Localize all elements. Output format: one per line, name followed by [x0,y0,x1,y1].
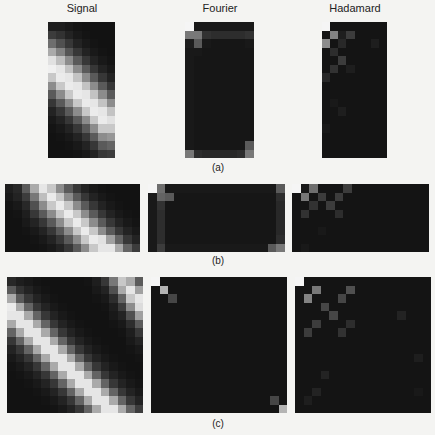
heatmap-cell [423,328,432,337]
heatmap-cell [304,379,313,388]
heatmap-cell [245,73,254,82]
heatmap-cell [48,90,56,99]
heatmap-cell [414,396,423,405]
heatmap-cell [107,124,115,133]
heatmap-cell [107,31,115,40]
heatmap-cell [228,82,237,91]
heatmap-cell [185,73,194,82]
heatmap-cell [148,201,157,210]
heatmap-cell [253,337,262,346]
heatmap-cell [355,320,364,329]
heatmap-cell [148,218,157,227]
heatmap-cell [372,311,381,320]
heatmap-cell [13,210,21,219]
heatmap-cell [395,201,404,210]
heatmap-cell [228,286,237,295]
heatmap-cell [346,90,354,99]
heatmap-cell [322,22,330,31]
heatmap-cell [245,22,254,31]
heatmap-cell [24,354,33,363]
heatmap-cell [389,405,398,414]
heatmap-cell [295,303,304,312]
heatmap-cell [371,99,379,108]
heatmap-cell [330,107,338,116]
heatmap-cell [295,328,304,337]
heatmap-cell [346,150,354,159]
heatmap-cell [98,244,106,253]
heatmap-cell [237,65,246,74]
heatmap-cell [64,244,72,253]
heatmap-cell [118,294,127,303]
heatmap-cell [338,354,347,363]
heatmap-cell [228,150,237,159]
heatmap-cell [262,362,271,371]
heatmap-cell [304,354,313,363]
heatmap-cell [5,218,13,227]
heatmap-cell [89,184,97,193]
heatmap-cell [406,320,415,329]
heatmap-cell [423,303,432,312]
heatmap-cell [242,244,251,253]
heatmap-cell [160,277,169,286]
heatmap-cell [41,362,50,371]
heatmap-cell [135,379,144,388]
heatmap-cell [151,277,160,286]
heatmap-cell [92,371,101,380]
heatmap-cell [33,371,42,380]
heatmap-cell [115,244,123,253]
heatmap-cell [371,90,379,99]
heatmap-cell [56,150,64,159]
heatmap-cell [346,56,354,65]
heatmap-cell [423,337,432,346]
heatmap-cell [194,124,203,133]
heatmap-cell [335,201,344,210]
heatmap-cell [48,73,56,82]
heatmap-cell [211,303,220,312]
heatmap-cell [361,184,370,193]
heatmap-cell [24,286,33,295]
heatmap-cell [386,218,395,227]
heatmap-cell [423,371,432,380]
heatmap-cell [338,277,347,286]
heatmap-cell [338,141,346,150]
heatmap-cell [101,405,110,414]
heatmap-cell [185,31,194,40]
heatmap-cell [185,48,194,57]
heatmap-cell [301,184,310,193]
heatmap-cell [106,218,114,227]
heatmap-cell [5,210,13,219]
heatmap-cell [194,379,203,388]
heatmap-cell [177,396,186,405]
heatmap-cell [16,337,25,346]
heatmap-cell [39,210,47,219]
heatmap-cell [369,193,378,202]
heatmap-cell [253,294,262,303]
heatmap-cell [379,56,387,65]
heatmap-cell [211,65,220,74]
heatmap-cell [58,388,67,397]
heatmap-cell [270,371,279,380]
heatmap-cell [371,124,379,133]
heatmap-cell [346,65,354,74]
heatmap-cell [160,354,169,363]
heatmap-cell [355,396,364,405]
heatmap-cell [165,210,174,219]
heatmap-cell [228,320,237,329]
heatmap-cell [262,388,271,397]
heatmap-cell [228,31,237,40]
heatmap-cell [355,337,364,346]
heatmap-cell [73,193,81,202]
heatmap-cell [56,235,64,244]
heatmap-cell [101,337,110,346]
heatmap-cell [412,193,421,202]
heatmap-cell [48,82,56,91]
heatmap-cell [174,227,183,236]
heatmap-cell [276,210,285,219]
heatmap-cell [107,99,115,108]
heatmap-cell [90,82,98,91]
heatmap-cell [321,345,330,354]
heatmap-cell [211,337,220,346]
heatmap-cell [423,294,432,303]
heatmap-cell [33,379,42,388]
heatmap-cell [73,116,81,125]
